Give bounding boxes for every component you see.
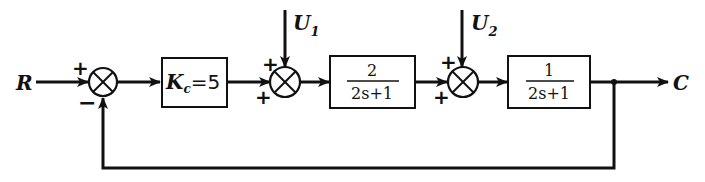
- plant2-denominator: 2s+1: [528, 84, 570, 103]
- block-diagram: R + − Kc=5 U1 + + 2 2s+1 U2 + + 1 2s+1: [0, 0, 705, 182]
- sum1-plus-sign: +: [72, 56, 89, 80]
- disturbance-u2-label: U2: [471, 11, 498, 39]
- sum3-bottom-plus-sign: +: [433, 85, 450, 109]
- plant2-numerator: 1: [544, 61, 554, 80]
- plant1-numerator: 2: [367, 61, 377, 80]
- disturbance-u1-label: U1: [293, 11, 320, 39]
- sum1-minus-sign: −: [78, 90, 96, 115]
- plant1-denominator: 2s+1: [351, 84, 393, 103]
- sum3-top-plus-sign: +: [440, 50, 457, 74]
- controller-gain-label: Kc=5: [165, 70, 220, 96]
- sum2-bottom-plus-sign: +: [255, 85, 272, 109]
- output-label-c: C: [673, 71, 689, 95]
- sum2-top-plus-sign: +: [262, 52, 279, 76]
- input-label-r: R: [15, 71, 33, 95]
